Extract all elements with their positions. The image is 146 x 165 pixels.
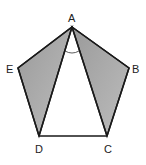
shaded-triangle-abc: [72, 27, 129, 136]
label-b: B: [132, 63, 139, 75]
label-e: E: [6, 63, 13, 75]
shaded-triangle-ade: [18, 27, 72, 136]
label-c: C: [104, 143, 112, 155]
label-d: D: [35, 143, 43, 155]
angle-arc-a: [65, 51, 79, 53]
pentagon-diagram: A B C D E: [0, 0, 146, 165]
label-a: A: [68, 12, 76, 24]
